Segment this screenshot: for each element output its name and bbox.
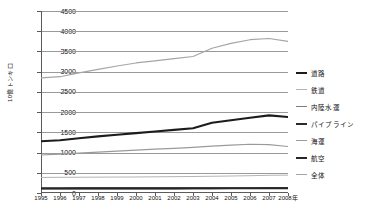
legend-item-label: 内陸水運 (311, 102, 340, 112)
x-axis-tick-mark (193, 193, 194, 196)
series-line (41, 175, 288, 177)
x-axis-tick-mark (231, 193, 232, 196)
series-line (41, 144, 288, 155)
legend-item-label: 海運 (311, 136, 325, 146)
x-axis-tick-mark (60, 193, 61, 196)
legend-item[interactable]: パイプライン (296, 115, 371, 132)
legend-item[interactable]: 道路 (296, 64, 371, 81)
legend-item[interactable]: 全体 (296, 166, 371, 183)
line-chart: 10億トンキロ 05001000150020002500300035004000… (0, 0, 371, 212)
x-axis-tick-mark (250, 193, 251, 196)
x-axis-tick-mark (41, 193, 42, 196)
legend-swatch-icon (296, 140, 307, 141)
legend-swatch-icon (296, 123, 307, 125)
legend-item-label: 航空 (311, 153, 325, 163)
legend-item[interactable]: 内陸水運 (296, 98, 371, 115)
legend-item-label: 鉄道 (311, 85, 325, 95)
legend-item[interactable]: 鉄道 (296, 81, 371, 98)
x-axis-tick-mark (117, 193, 118, 196)
x-axis-tick-mark (269, 193, 270, 196)
legend-item-label: 道路 (311, 68, 325, 78)
x-axis-tick-mark (212, 193, 213, 196)
legend-swatch-icon (296, 106, 307, 107)
series-lines (41, 11, 288, 193)
series-line (41, 115, 288, 141)
y-axis-title: 10億トンキロ (5, 50, 14, 116)
legend-swatch-icon (296, 89, 307, 90)
legend-swatch-icon (296, 174, 307, 175)
x-axis-tick-mark (98, 193, 99, 196)
series-line (41, 39, 288, 78)
x-axis-tick-mark (136, 193, 137, 196)
legend-swatch-icon (296, 72, 307, 74)
x-axis-tick-mark (174, 193, 175, 196)
x-axis-tick-mark (79, 193, 80, 196)
legend-item[interactable]: 海運 (296, 132, 371, 149)
legend-item[interactable]: 航空 (296, 149, 371, 166)
x-axis-tick-mark (155, 193, 156, 196)
legend-swatch-icon (296, 157, 307, 159)
legend-item-label: 全体 (311, 170, 325, 180)
legend-item-label: パイプライン (311, 119, 354, 129)
legend: 道路鉄道内陸水運パイプライン海運航空全体 (296, 64, 371, 183)
x-axis-tick-mark (288, 193, 289, 196)
